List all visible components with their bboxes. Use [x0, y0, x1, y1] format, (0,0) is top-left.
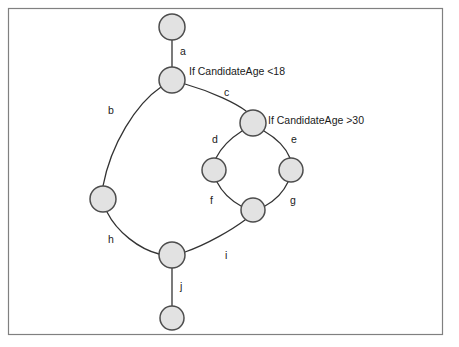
node-inner-top[interactable] — [240, 110, 266, 136]
edge-label-e: e — [291, 133, 297, 145]
node-bottom[interactable] — [160, 306, 184, 330]
edge-label-b: b — [108, 104, 114, 116]
node-inner-right[interactable] — [279, 158, 303, 182]
edge-label-f: f — [210, 194, 213, 206]
edge-d[interactable] — [216, 131, 242, 158]
edge-label-a: a — [180, 45, 186, 57]
edge-label-d: d — [212, 133, 218, 145]
condition-labels-layer: If CandidateAge <18 If CandidateAge >30 — [189, 65, 364, 126]
edge-f[interactable] — [217, 182, 241, 206]
edge-i[interactable] — [185, 220, 245, 252]
edge-label-j: j — [179, 280, 182, 292]
condition-age-under-18: If CandidateAge <18 — [189, 65, 285, 77]
diagram-canvas: a b c d e f g h i j If CandidateAge <18 … — [0, 0, 459, 347]
condition-age-over-30: If CandidateAge >30 — [268, 114, 364, 126]
node-outer-left[interactable] — [90, 186, 116, 212]
edge-h[interactable] — [107, 212, 159, 254]
edges-layer — [103, 40, 290, 306]
nodes-layer — [90, 14, 303, 330]
edge-label-g: g — [290, 194, 296, 206]
graph-diagram: a b c d e f g h i j If CandidateAge <18 … — [0, 0, 459, 347]
node-inner-bottom[interactable] — [241, 198, 265, 222]
node-top[interactable] — [159, 14, 185, 40]
edge-label-h: h — [108, 233, 114, 245]
node-decision-age[interactable] — [159, 67, 185, 93]
edge-label-i: i — [225, 249, 227, 261]
node-junction[interactable] — [159, 242, 185, 268]
edge-c[interactable] — [185, 84, 246, 111]
edge-g[interactable] — [265, 182, 288, 206]
edge-e[interactable] — [264, 131, 290, 158]
edge-b[interactable] — [103, 87, 161, 186]
edge-label-c: c — [224, 86, 229, 98]
node-inner-left[interactable] — [202, 158, 226, 182]
